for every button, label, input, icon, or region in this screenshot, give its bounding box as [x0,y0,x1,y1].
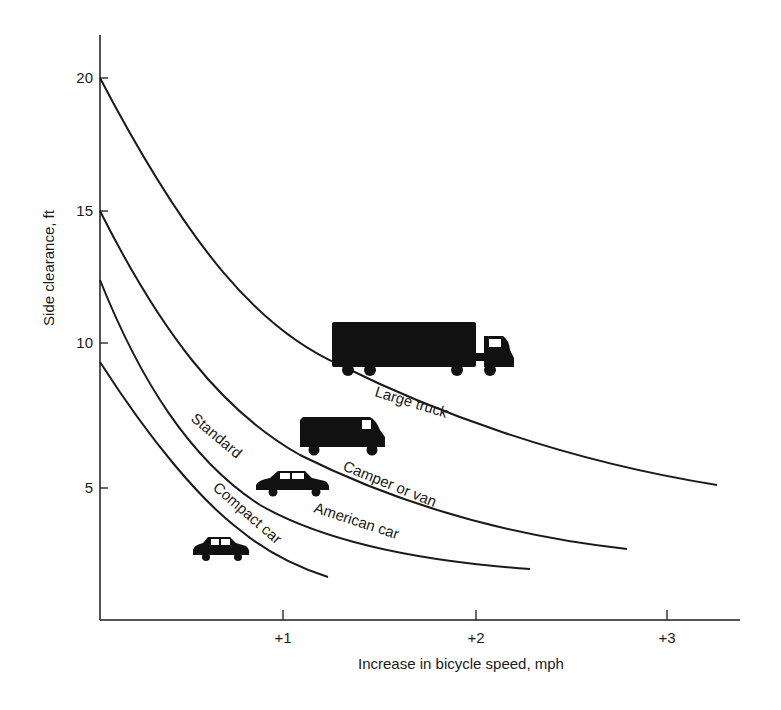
label-large-truck: Large truck [373,383,450,421]
x-ticks [283,610,667,620]
curve-camper-van [100,211,627,549]
y-tick-label: 5 [85,479,93,496]
chart-canvas: 20 15 10 5 +1 +2 +3 Increase in bicycle … [0,0,781,710]
label-american-car: American car [312,499,401,542]
x-axis-title: Increase in bicycle speed, mph [358,655,564,672]
y-tick-label: 15 [76,202,93,219]
compact-car-icon [193,537,249,561]
label-standard: Standard [188,409,246,461]
y-axis-title: Side clearance, ft [40,209,57,326]
truck-icon [332,322,514,376]
x-tick-label: +3 [658,629,675,646]
x-tick-label: +2 [467,629,484,646]
x-tick-label: +1 [274,629,291,646]
y-tick-label: 20 [76,69,93,86]
van-icon [300,417,385,456]
american-car-icon [256,471,329,497]
y-tick-label: 10 [76,334,93,351]
label-camper-van: Camper or van [341,457,439,510]
